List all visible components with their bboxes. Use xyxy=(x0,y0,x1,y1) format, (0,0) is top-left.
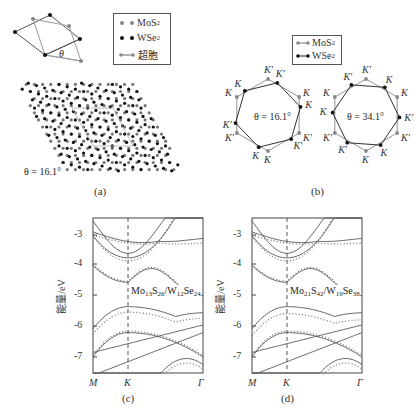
xtick-gamma: Γ xyxy=(357,377,363,388)
ytick: -4 xyxy=(233,257,241,268)
formula-d: Mo21S42/W19Se38 xyxy=(290,285,360,298)
ytick: -6 xyxy=(233,319,241,330)
band-structure-d xyxy=(0,0,418,413)
xtick-k: K xyxy=(283,377,290,388)
figure: θ MoS2 WSe2 超胞 θ = 16.1° (a) MoS2 WSe2 xyxy=(0,0,418,413)
ylabel-d: 能量/eV xyxy=(212,279,227,313)
ytick: -5 xyxy=(233,288,241,299)
caption-d: (d) xyxy=(281,392,294,404)
ytick: -7 xyxy=(233,350,241,361)
ytick: -3 xyxy=(233,228,241,239)
xtick-m: M xyxy=(248,377,256,388)
